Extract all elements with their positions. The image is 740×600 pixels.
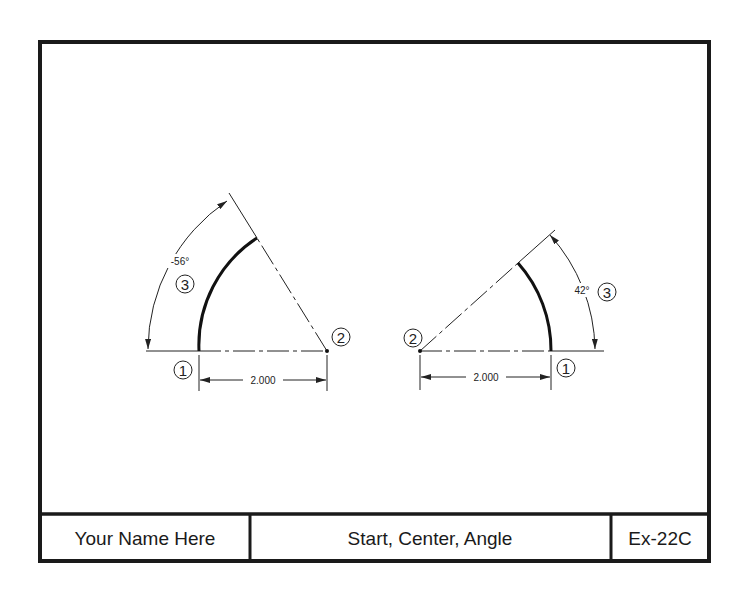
center-point: [325, 349, 329, 353]
centerline-angle: [257, 238, 327, 351]
drawing-sheet: Your Name Here Start, Center, Angle Ex-2…: [0, 0, 740, 600]
figure-right: 42° 2.000 1 2 3: [404, 230, 616, 390]
svg-text:3: 3: [603, 284, 611, 301]
balloon-angle: 3: [598, 283, 616, 301]
balloon-center: 2: [332, 328, 350, 346]
angle-dimension-text: -56°: [171, 256, 189, 267]
arc: [518, 263, 551, 351]
angle-dimension-text: 42°: [574, 285, 589, 296]
svg-text:1: 1: [562, 360, 570, 377]
name-field: Your Name Here: [75, 528, 216, 549]
balloon-start: 1: [174, 361, 192, 379]
title-block: Your Name Here Start, Center, Angle Ex-2…: [40, 514, 709, 561]
balloon-start: 1: [557, 359, 575, 377]
sheet-border: [40, 42, 709, 561]
extension-line: [518, 230, 555, 263]
radius-dimension-text: 2.000: [250, 375, 275, 386]
svg-text:2: 2: [409, 330, 417, 347]
svg-text:1: 1: [179, 362, 187, 379]
figure-left: -56° 2.000 1 2 3: [146, 193, 350, 391]
drawing-title: Start, Center, Angle: [348, 528, 513, 549]
exercise-number: Ex-22C: [628, 528, 691, 549]
svg-text:3: 3: [181, 276, 189, 293]
centerline-angle: [420, 263, 518, 351]
center-point: [418, 349, 422, 353]
extension-line: [229, 193, 257, 238]
arc: [199, 238, 257, 351]
balloon-angle: 3: [176, 275, 194, 293]
svg-text:2: 2: [337, 329, 345, 346]
balloon-center: 2: [404, 329, 422, 347]
radius-dimension-text: 2.000: [473, 372, 498, 383]
